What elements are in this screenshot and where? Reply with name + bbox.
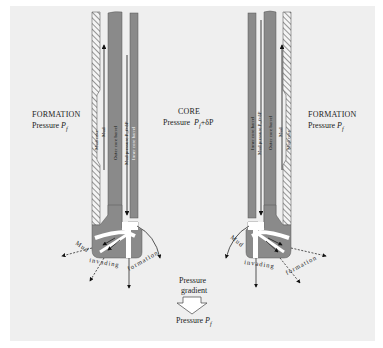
left-mud-cake-wall (92, 12, 100, 225)
left-inner-barrel-label: Inner core barrel (131, 127, 137, 160)
right-formation-title: FORMATION (308, 110, 356, 120)
left-barrel: Mud invading formation (62, 12, 160, 288)
pressure-gradient-arrow (177, 297, 207, 314)
core-barrel-diagram: Mud invading formation Mud invading form… (0, 0, 383, 348)
left-mud-cake-label: Mud cake (94, 130, 100, 150)
left-formation-title: FORMATION (32, 110, 80, 120)
right-mud-label: Mud (278, 128, 284, 137)
core-pressure: Pressure Pf+δP (163, 118, 213, 131)
left-mud-label: Mud (101, 128, 107, 137)
right-bit-caption-formation: formation (284, 253, 318, 275)
core-title: CORE (178, 107, 200, 117)
right-bit-caption-mud: Mud (229, 233, 245, 248)
left-bit-caption-mud: Mud (74, 239, 91, 253)
gradient-line1: Pressure (179, 276, 206, 286)
left-outer-barrel-label: Outer core barrel (113, 126, 119, 160)
right-barrel: Mud invading formation (226, 11, 326, 287)
right-bit-caption-invading: invading (244, 258, 275, 269)
gradient-bottom-pressure: Pressure Pf (176, 316, 212, 329)
right-mud-pressure-label: Mud pressure P_f+δP (257, 111, 263, 155)
left-formation-pressure: Pressure Pf (32, 121, 68, 134)
right-mud-cake-wall (283, 12, 291, 225)
right-outer-barrel-label: Outer core barrel (268, 116, 274, 150)
gradient-line2: gradient (181, 286, 207, 296)
right-inner-barrel-label: Inner core barrel (250, 117, 256, 150)
right-formation-pressure: Pressure Pf (308, 121, 344, 134)
right-mud-cake-label: Mud cake (286, 130, 292, 150)
left-mud-pressure-label: Mud pressure P_f+δP (124, 121, 130, 165)
